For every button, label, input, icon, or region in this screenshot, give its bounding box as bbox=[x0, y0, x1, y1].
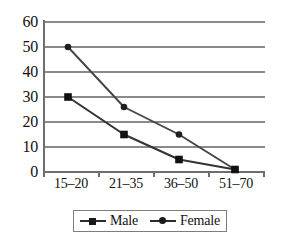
x-tick-label-51-70: 51–70 bbox=[207, 176, 265, 192]
y-tick-label-30: 30 bbox=[8, 89, 38, 105]
gridlines bbox=[44, 22, 265, 147]
y-tick-label-20: 20 bbox=[8, 114, 38, 130]
series-markers-female bbox=[65, 44, 239, 173]
series-line-male bbox=[68, 97, 235, 170]
marker-female-1 bbox=[121, 104, 128, 111]
x-tick-label-15-20: 15–20 bbox=[42, 176, 100, 192]
y-tick-label-10: 10 bbox=[8, 139, 38, 155]
marker-male-2 bbox=[175, 156, 183, 164]
series-markers-male bbox=[64, 93, 239, 173]
diamond-marker-icon bbox=[150, 215, 176, 227]
series-line-female bbox=[68, 47, 235, 170]
chart-legend: Male Female bbox=[73, 210, 227, 232]
marker-female-2 bbox=[176, 131, 183, 138]
legend-item-female[interactable]: Female bbox=[150, 214, 220, 228]
legend-label-male: Male bbox=[110, 214, 138, 228]
marker-male-1 bbox=[120, 131, 128, 139]
marker-male-3 bbox=[231, 166, 239, 174]
square-marker-icon bbox=[80, 215, 106, 227]
plot-area bbox=[0, 0, 282, 242]
x-tick-label-21-35: 21–35 bbox=[97, 176, 155, 192]
y-tick-label-0: 0 bbox=[8, 164, 38, 180]
marker-female-0 bbox=[65, 44, 72, 51]
legend-item-male[interactable]: Male bbox=[80, 214, 138, 228]
legend-label-female: Female bbox=[180, 214, 220, 228]
y-tick-label-60: 60 bbox=[8, 14, 38, 30]
x-tick-label-36-50: 36–50 bbox=[152, 176, 210, 192]
marker-male-0 bbox=[64, 93, 72, 101]
line-chart: 60 50 40 30 20 10 0 15–20 21–35 36–50 51… bbox=[0, 0, 282, 242]
y-tick-label-40: 40 bbox=[8, 64, 38, 80]
y-tick-label-50: 50 bbox=[8, 39, 38, 55]
